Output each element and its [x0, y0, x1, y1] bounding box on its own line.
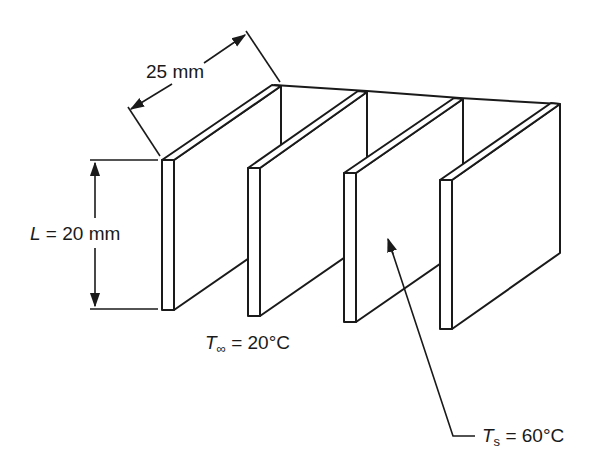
fin-height-variable: L: [30, 223, 41, 244]
fin-height-label: L = 20 mm: [30, 224, 120, 243]
ambient-temp-value: = 20°C: [226, 332, 290, 353]
length-extension-back: [246, 31, 280, 82]
length-extension-front: [128, 107, 160, 156]
surface-temp-subscript: s: [494, 434, 501, 449]
ambient-temperature-label: T∞ = 20°C: [205, 333, 290, 352]
length-dimension-arrow-lower: [131, 84, 172, 109]
fin-height-value: = 20 mm: [41, 223, 121, 244]
fin-length-label: 25 mm: [146, 62, 204, 81]
surface-temperature-label: Ts = 60°C: [482, 426, 564, 445]
ambient-temp-subscript: ∞: [217, 341, 226, 356]
surface-temp-value: = 60°C: [500, 425, 564, 446]
surface-temp-variable: T: [482, 425, 494, 446]
ambient-temp-variable: T: [205, 332, 217, 353]
length-dimension-arrow-upper: [204, 35, 245, 63]
base-back-edge: [274, 85, 560, 104]
